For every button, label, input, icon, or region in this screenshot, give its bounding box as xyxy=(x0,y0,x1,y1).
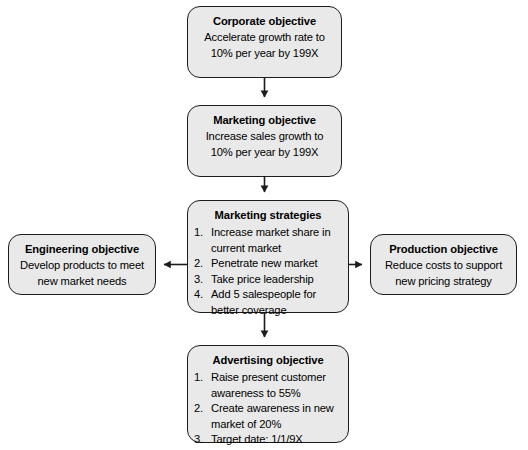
list-item-text: Create awareness in new market of 20% xyxy=(211,402,334,430)
diagram-canvas: Corporate objective Accelerate growth ra… xyxy=(0,0,528,450)
list-item-number: 1. xyxy=(194,370,203,386)
list-item-number: 2. xyxy=(194,401,203,417)
node-corporate-objective: Corporate objective Accelerate growth ra… xyxy=(187,6,342,78)
node-marketing-objective-line-1: Increase sales growth to xyxy=(194,129,335,145)
node-production-objective-line-2: new pricing strategy xyxy=(377,274,510,290)
list-item: 4. Add 5 salespeople for better coverage xyxy=(194,287,342,318)
node-marketing-strategies-title: Marketing strategies xyxy=(194,208,342,223)
list-item-number: 4. xyxy=(194,287,203,303)
node-corporate-objective-title: Corporate objective xyxy=(194,14,335,29)
node-engineering-objective-line-1: Develop products to meet xyxy=(15,258,149,274)
list-item-text: Target date: 1/1/9X xyxy=(211,433,303,445)
node-advertising-objective-title: Advertising objective xyxy=(194,353,342,368)
list-item: 1. Increase market share in current mark… xyxy=(194,225,342,256)
list-item-number: 2. xyxy=(194,256,203,272)
node-engineering-objective-line-2: new market needs xyxy=(15,274,149,290)
list-item-number: 3. xyxy=(194,432,203,448)
list-item-number: 3. xyxy=(194,272,203,288)
list-item-text: Take price leadership xyxy=(211,273,314,285)
node-marketing-objective-line-2: 10% per year by 199X xyxy=(194,145,335,161)
node-marketing-strategies: Marketing strategies 1. Increase market … xyxy=(187,200,349,313)
node-marketing-strategies-list: 1. Increase market share in current mark… xyxy=(194,225,342,318)
node-production-objective: Production objective Reduce costs to sup… xyxy=(370,234,517,295)
node-engineering-objective: Engineering objective Develop products t… xyxy=(8,234,156,295)
list-item-number: 1. xyxy=(194,225,203,241)
list-item: 1. Raise present customer awareness to 5… xyxy=(194,370,342,401)
node-engineering-objective-title: Engineering objective xyxy=(15,242,149,257)
node-corporate-objective-line-1: Accelerate growth rate to xyxy=(194,30,335,46)
node-production-objective-line-1: Reduce costs to support xyxy=(377,258,510,274)
list-item: 2. Penetrate new market xyxy=(194,256,342,272)
list-item-text: Penetrate new market xyxy=(211,257,317,269)
node-marketing-objective-title: Marketing objective xyxy=(194,113,335,128)
list-item-text: Add 5 salespeople for better coverage xyxy=(211,288,316,316)
list-item: 3. Target date: 1/1/9X xyxy=(194,432,342,448)
node-advertising-objective: Advertising objective 1. Raise present c… xyxy=(187,345,349,443)
list-item: 3. Take price leadership xyxy=(194,272,342,288)
node-advertising-objective-list: 1. Raise present customer awareness to 5… xyxy=(194,370,342,448)
node-marketing-objective: Marketing objective Increase sales growt… xyxy=(187,105,342,177)
list-item: 2. Create awareness in new market of 20% xyxy=(194,401,342,432)
list-item-text: Increase market share in current market xyxy=(211,226,331,254)
node-production-objective-title: Production objective xyxy=(377,242,510,257)
list-item-text: Raise present customer awareness to 55% xyxy=(211,371,326,399)
node-corporate-objective-line-2: 10% per year by 199X xyxy=(194,46,335,62)
